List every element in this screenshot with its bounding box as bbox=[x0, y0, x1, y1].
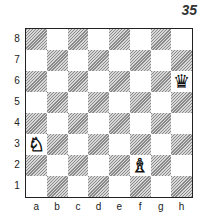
rank-label-3: 3 bbox=[12, 138, 22, 149]
square-d1 bbox=[88, 176, 109, 197]
square-c8 bbox=[68, 29, 89, 50]
square-d3 bbox=[88, 134, 109, 155]
rank-label-8: 8 bbox=[12, 33, 22, 44]
square-b3 bbox=[47, 134, 68, 155]
rank-label-4: 4 bbox=[12, 117, 22, 128]
square-a8 bbox=[26, 29, 47, 50]
square-d4 bbox=[88, 113, 109, 134]
square-g7 bbox=[151, 50, 172, 71]
square-c3 bbox=[68, 134, 89, 155]
square-g2 bbox=[151, 155, 172, 176]
rank-label-7: 7 bbox=[12, 54, 22, 65]
square-d2 bbox=[88, 155, 109, 176]
file-label-h: h bbox=[171, 201, 192, 212]
square-d6 bbox=[88, 71, 109, 92]
square-b6 bbox=[47, 71, 68, 92]
square-g5 bbox=[151, 92, 172, 113]
square-c6 bbox=[68, 71, 89, 92]
square-e6 bbox=[109, 71, 130, 92]
square-a2 bbox=[26, 155, 47, 176]
square-e4 bbox=[109, 113, 130, 134]
square-f5 bbox=[130, 92, 151, 113]
square-h3 bbox=[171, 134, 192, 155]
rank-label-5: 5 bbox=[12, 96, 22, 107]
square-c2 bbox=[68, 155, 89, 176]
square-c4 bbox=[68, 113, 89, 134]
square-f4 bbox=[130, 113, 151, 134]
rank-label-2: 2 bbox=[12, 159, 22, 170]
square-e8 bbox=[109, 29, 130, 50]
square-c1 bbox=[68, 176, 89, 197]
square-e7 bbox=[109, 50, 130, 71]
chess-board: ♛♘♗ bbox=[25, 28, 193, 198]
square-g3 bbox=[151, 134, 172, 155]
square-f7 bbox=[130, 50, 151, 71]
square-f1 bbox=[130, 176, 151, 197]
square-g4 bbox=[151, 113, 172, 134]
square-a6 bbox=[26, 71, 47, 92]
square-d5 bbox=[88, 92, 109, 113]
square-h4 bbox=[171, 113, 192, 134]
square-h2 bbox=[171, 155, 192, 176]
file-label-f: f bbox=[130, 201, 151, 212]
file-label-c: c bbox=[68, 201, 89, 212]
file-label-g: g bbox=[151, 201, 172, 212]
rank-label-1: 1 bbox=[12, 180, 22, 191]
square-h8 bbox=[171, 29, 192, 50]
square-b8 bbox=[47, 29, 68, 50]
square-a1 bbox=[26, 176, 47, 197]
file-label-d: d bbox=[88, 201, 109, 212]
file-label-a: a bbox=[26, 201, 47, 212]
square-b1 bbox=[47, 176, 68, 197]
square-a4 bbox=[26, 113, 47, 134]
square-h7 bbox=[171, 50, 192, 71]
square-e5 bbox=[109, 92, 130, 113]
square-b7 bbox=[47, 50, 68, 71]
white-knight-icon: ♘ bbox=[26, 134, 47, 155]
square-e1 bbox=[109, 176, 130, 197]
square-b2 bbox=[47, 155, 68, 176]
square-g1 bbox=[151, 176, 172, 197]
rank-label-6: 6 bbox=[12, 75, 22, 86]
white-bishop-icon: ♗ bbox=[130, 155, 151, 176]
file-label-b: b bbox=[47, 201, 68, 212]
square-e2 bbox=[109, 155, 130, 176]
square-c7 bbox=[68, 50, 89, 71]
square-f8 bbox=[130, 29, 151, 50]
square-g8 bbox=[151, 29, 172, 50]
diagram-number: 35 bbox=[181, 2, 197, 18]
square-b5 bbox=[47, 92, 68, 113]
file-label-e: e bbox=[109, 201, 130, 212]
square-f3 bbox=[130, 134, 151, 155]
black-queen-icon: ♛ bbox=[171, 71, 192, 92]
square-e3 bbox=[109, 134, 130, 155]
square-c5 bbox=[68, 92, 89, 113]
square-d7 bbox=[88, 50, 109, 71]
square-g6 bbox=[151, 71, 172, 92]
square-b4 bbox=[47, 113, 68, 134]
square-d8 bbox=[88, 29, 109, 50]
square-f6 bbox=[130, 71, 151, 92]
square-h5 bbox=[171, 92, 192, 113]
square-a5 bbox=[26, 92, 47, 113]
square-a7 bbox=[26, 50, 47, 71]
square-h1 bbox=[171, 176, 192, 197]
